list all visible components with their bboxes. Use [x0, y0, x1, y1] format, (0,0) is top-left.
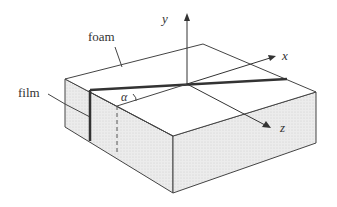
z-axis-label: z: [279, 120, 285, 135]
angle-label: α: [121, 90, 128, 104]
x-axis-label: x: [281, 48, 288, 63]
film-label: film: [18, 85, 40, 100]
foam-film-diagram: foam film α y x z: [0, 0, 337, 207]
y-axis-label: y: [160, 11, 168, 26]
film-leader-line: [48, 94, 65, 104]
x-axis-arrow-icon: [268, 55, 276, 61]
y-axis-arrow-icon: [184, 13, 190, 21]
foam-leader-line: [115, 47, 122, 67]
foam-label: foam: [88, 29, 115, 44]
